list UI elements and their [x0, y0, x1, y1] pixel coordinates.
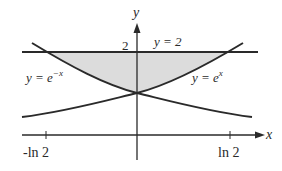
label-exp-x-base: y = e	[190, 70, 219, 85]
label-exp-x: y = ex	[190, 68, 223, 85]
x-axis-label: x	[265, 127, 273, 142]
label-y-equals-2: y = 2	[152, 34, 182, 49]
x-tick-neg-ln2: -ln 2	[23, 145, 49, 160]
graph-figure: y x 2 -ln 2 ln 2 y = 2 y = e−x y = ex	[0, 0, 282, 171]
label-exp-x-exponent: x	[218, 68, 223, 78]
x-tick-ln2: ln 2	[218, 145, 239, 160]
x-axis-arrow-icon	[255, 132, 265, 139]
graph-svg: y x 2 -ln 2 ln 2 y = 2 y = e−x y = ex	[0, 0, 282, 171]
y-axis-arrow-icon	[134, 23, 141, 33]
label-exp-neg-x-base: y = e	[24, 70, 53, 85]
label-exp-neg-x-exponent: −x	[53, 68, 63, 78]
label-exp-neg-x: y = e−x	[24, 68, 63, 85]
y-tick-2: 2	[122, 38, 129, 53]
y-axis-label: y	[131, 5, 140, 20]
